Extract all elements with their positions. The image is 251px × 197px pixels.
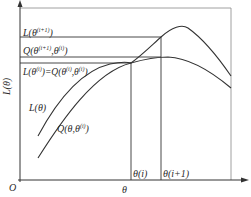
label-curve-l: L(θ) (29, 103, 46, 113)
label-theta-i-plus-1: θ(i+1) (163, 169, 189, 179)
label-curve-q: Q(θ,θ(i)) (57, 123, 89, 134)
y-axis-arrow-icon (18, 0, 23, 7)
label-theta-i: θ(i) (133, 169, 147, 179)
origin-label: O (9, 183, 16, 193)
y-axis-label: L(θ) (1, 78, 12, 95)
x-axis-arrow-icon (241, 178, 249, 183)
label-l-next: L(θ(i+1)) (23, 27, 53, 38)
curve-l-theta (38, 26, 231, 136)
label-l-equals-q: L(θ(i))=Q(θ(i),θ(i)) (23, 66, 88, 78)
x-axis-label: θ (122, 185, 127, 195)
label-q-next: Q(θ(i+1),θ(i)) (23, 45, 68, 56)
